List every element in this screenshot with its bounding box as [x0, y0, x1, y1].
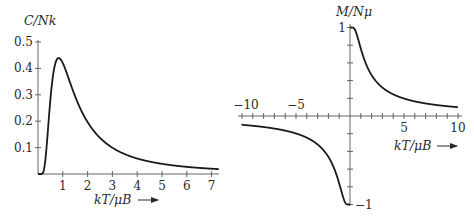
y-tick-label: 0.4	[14, 61, 33, 75]
heat-capacity-chart: C/Nk 12345670.10.20.30.40.5 kT/μB	[14, 13, 219, 207]
magnetization-curve-positive	[350, 28, 458, 108]
x-axis-title: kT/μB	[394, 138, 431, 153]
y-axis-title: M/Nμ	[335, 4, 372, 19]
y-tick-label: 1	[338, 21, 346, 35]
heat-capacity-curve	[38, 58, 219, 174]
x-tick-label: 1	[59, 179, 67, 193]
y-tick-label: −1	[355, 198, 373, 212]
x-tick-label: 6	[183, 179, 191, 193]
magnetization-curve-negative	[242, 125, 350, 205]
x-tick-label: 2	[84, 179, 92, 193]
magnetization-chart: M/Nμ −10−55101−1 kT/μB	[233, 4, 465, 212]
x-tick-label: 5	[400, 121, 408, 135]
x-tick-label: 3	[109, 179, 117, 193]
y-tick-label: 0.1	[14, 141, 33, 155]
y-tick-label: 0.2	[14, 114, 33, 128]
chart-canvas: C/Nk 12345670.10.20.30.40.5 kT/μB M/Nμ −…	[0, 0, 474, 221]
y-tick-label: 0.3	[14, 88, 33, 102]
x-tick-label: 5	[158, 179, 166, 193]
axes	[38, 40, 219, 174]
axes	[238, 24, 462, 206]
x-tick-label: 7	[208, 179, 216, 193]
x-tick-label: 10	[450, 121, 465, 135]
y-axis-title: C/Nk	[24, 13, 56, 28]
x-tick-label: 4	[133, 179, 141, 193]
y-tick-label: 0.5	[14, 35, 33, 49]
data-series	[38, 58, 219, 174]
x-tick-label: −5	[287, 98, 305, 112]
x-tick-label: −10	[233, 98, 258, 112]
x-axis-title: kT/μB	[94, 192, 131, 207]
